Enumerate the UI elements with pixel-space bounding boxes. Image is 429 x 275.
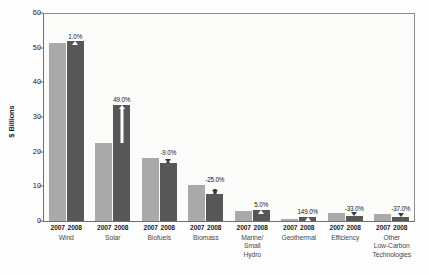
bar-chart: 6050403020100 $ Billions 1.0%49.0%-9.0%-… [0, 0, 429, 275]
x-axis-year-labels: 20072008 [90, 224, 137, 231]
bar-group: -25.0% [183, 13, 230, 221]
change-connector [120, 109, 123, 143]
bar-2008: 1.0% [67, 41, 84, 221]
bar-pair: -25.0% [183, 13, 230, 221]
x-axis-year-2007: 2007 [142, 224, 159, 231]
x-axis-category-label: OtherLow-CarbonTechnologies [369, 234, 416, 260]
bar-2008: 49.0% [113, 105, 130, 221]
change-arrowhead-down [398, 213, 404, 217]
bar-2007 [281, 219, 298, 221]
x-axis-year-labels: 20072008 [136, 224, 183, 231]
bar-pair: 5.0% [229, 13, 276, 221]
bar-pair: -33.0% [322, 13, 369, 221]
x-axis-year-2008: 2008 [299, 224, 316, 231]
percent-change-label: 1.0% [68, 34, 82, 40]
bar-pair: -9.0% [136, 13, 183, 221]
x-axis-line [43, 221, 415, 222]
percent-change-label: -33.0% [345, 206, 364, 212]
x-axis-year-2007: 2007 [328, 224, 345, 231]
change-arrowhead-up [72, 41, 78, 45]
x-axis-year-2008: 2008 [66, 224, 83, 231]
x-axis-category-label: Solar [90, 234, 137, 243]
bar-2008: -37.0% [392, 217, 409, 222]
x-axis-category-label: Biomass [183, 234, 230, 243]
bar-2008: -9.0% [160, 163, 177, 221]
x-axis-year-2007: 2007 [49, 224, 66, 231]
percent-change-label: 149.0% [298, 209, 318, 215]
bar-pair: 1.0% [43, 13, 90, 221]
x-axis-year-labels: 20072008 [369, 224, 416, 231]
bar-2007 [95, 143, 112, 221]
x-axis-category-label: Biofuels [136, 234, 183, 243]
percent-change-label: -25.0% [205, 177, 224, 183]
bar-group: -37.0% [369, 13, 416, 221]
x-axis-category-label: Geothermal [276, 234, 323, 243]
y-axis-tick-label: 60 [0, 9, 41, 17]
percent-change-label: 5.0% [254, 202, 268, 208]
x-axis-group-label: 20072008OtherLow-CarbonTechnologies [369, 224, 416, 259]
change-arrowhead-down [351, 212, 357, 216]
x-axis-year-2008: 2008 [206, 224, 223, 231]
x-axis-group-label: 20072008Efficiency [322, 224, 369, 259]
bar-group: -9.0% [136, 13, 183, 221]
x-axis-year-2007: 2007 [189, 224, 206, 231]
change-arrowhead-down [212, 190, 218, 194]
change-arrowhead-up [305, 217, 311, 221]
x-axis-year-2007: 2007 [282, 224, 299, 231]
x-axis-year-2008: 2008 [345, 224, 362, 231]
x-axis-year-2007: 2007 [96, 224, 113, 231]
x-axis-year-2007: 2007 [235, 224, 252, 231]
bar-2008: 149.0% [299, 217, 316, 222]
x-axis-year-2008: 2008 [392, 224, 409, 231]
y-axis-title: $ Billions [7, 67, 16, 177]
bar-pair: 49.0% [90, 13, 137, 221]
x-axis-year-labels: 20072008 [229, 224, 276, 231]
x-axis-year-labels: 20072008 [43, 224, 90, 231]
x-axis-category-label: Wind [43, 234, 90, 243]
bar-group: 5.0% [229, 13, 276, 221]
x-axis-year-labels: 20072008 [322, 224, 369, 231]
bar-pair: -37.0% [369, 13, 416, 221]
bar-2007 [49, 43, 66, 221]
x-axis-year-labels: 20072008 [276, 224, 323, 231]
x-axis-year-2008: 2008 [113, 224, 130, 231]
y-axis-tick-label: 10 [0, 183, 41, 191]
bar-2007 [142, 158, 159, 221]
bar-groups: 1.0%49.0%-9.0%-25.0%5.0%149.0%-33.0%-37.… [43, 13, 415, 221]
bar-pair: 149.0% [276, 13, 323, 221]
x-axis-group-label: 20072008Biofuels [136, 224, 183, 259]
bar-2007 [328, 213, 345, 221]
percent-change-label: -9.0% [160, 150, 176, 156]
bar-group: 149.0% [276, 13, 323, 221]
bar-group: 1.0% [43, 13, 90, 221]
x-axis-year-2007: 2007 [375, 224, 392, 231]
bar-2008: 5.0% [253, 210, 270, 221]
bar-group: 49.0% [90, 13, 137, 221]
change-arrowhead-down [165, 159, 171, 163]
x-axis-year-labels: 20072008 [183, 224, 230, 231]
y-axis-tick-label: 0 [0, 217, 41, 225]
x-axis-labels: 20072008Wind20072008Solar20072008Biofuel… [43, 224, 415, 259]
x-axis-year-2008: 2008 [252, 224, 269, 231]
percent-change-label: 49.0% [113, 97, 130, 103]
y-axis-tick-label: 50 [0, 44, 41, 52]
percent-change-label: -37.0% [391, 206, 410, 212]
x-axis-category-label: Efficiency [322, 234, 369, 243]
bar-2007 [235, 211, 252, 221]
bar-group: -33.0% [322, 13, 369, 221]
x-axis-group-label: 20072008Marine/SmallHydro [229, 224, 276, 259]
x-axis-year-2008: 2008 [159, 224, 176, 231]
x-axis-category-label: Marine/SmallHydro [229, 234, 276, 260]
x-axis-group-label: 20072008Wind [43, 224, 90, 259]
bar-2008: -33.0% [346, 216, 363, 221]
bar-2008: -25.0% [206, 194, 223, 221]
change-arrowhead-up [258, 210, 264, 214]
bar-2007 [374, 214, 391, 221]
x-axis-group-label: 20072008Biomass [183, 224, 230, 259]
change-arrowhead-up [119, 105, 125, 109]
x-axis-group-label: 20072008Solar [90, 224, 137, 259]
bar-2007 [188, 185, 205, 221]
x-axis-group-label: 20072008Geothermal [276, 224, 323, 259]
